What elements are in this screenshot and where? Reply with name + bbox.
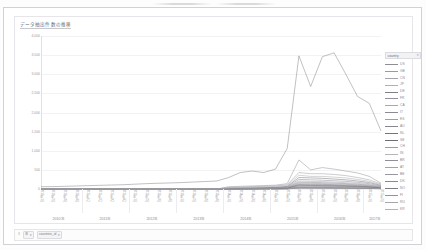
- x-axis-year-label: 2016年: [334, 216, 346, 221]
- legend-swatch-icon: [385, 167, 398, 168]
- legend-item-label: US: [400, 63, 405, 66]
- bottom-toolbar[interactable]: ⠿ 年 ▾ countries_id ▾: [14, 229, 413, 241]
- legend-swatch-icon: [385, 98, 398, 99]
- grip-icon: ⠿: [18, 233, 20, 236]
- x-axis-tick-label: 2015年2Q: [286, 189, 289, 202]
- legend-item[interactable]: BR: [385, 157, 421, 164]
- legend-item[interactable]: CN: [385, 75, 421, 82]
- x-axis-tick-label: 2016年2Q: [333, 189, 336, 202]
- x-axis-tick-label: 2017年2Q: [380, 189, 383, 202]
- legend-header[interactable]: country ▾: [385, 52, 421, 59]
- legend-item[interactable]: AT: [385, 164, 421, 171]
- legend-item[interactable]: NL: [385, 130, 421, 137]
- legend-swatch-icon: [385, 78, 398, 79]
- legend-swatch-icon: [385, 181, 398, 182]
- chart-canvas: データ抽出件数の推移 05001,0001,5002,0002,5003,000…: [14, 16, 413, 224]
- x-axis-tick-label: 2010年1Q: [40, 189, 43, 202]
- x-axis-group-separator: [270, 189, 271, 213]
- x-axis-tick-label: 2011年3Q: [110, 189, 113, 202]
- legend-item[interactable]: CA: [385, 102, 421, 109]
- y-axis-tick-label: 1,500: [32, 130, 41, 134]
- x-axis-year-labels: 2010年2011年2012年2013年2014年2015年2016年2017年: [41, 216, 381, 226]
- x-axis-tick-label: 2012年3Q: [157, 189, 160, 202]
- x-axis-tick-label: 2012年1Q: [133, 189, 136, 202]
- x-axis-group-separator: [82, 189, 83, 213]
- x-axis-tick-label: 2012年2Q: [145, 189, 148, 202]
- series-line: [41, 53, 381, 187]
- legend-item[interactable]: CH: [385, 144, 421, 151]
- x-axis-tick-label: 2012年4Q: [168, 189, 171, 202]
- legend-item[interactable]: BE: [385, 171, 421, 178]
- y-axis-tick-label: 4,000: [32, 34, 41, 38]
- x-axis-year-label: 2011年: [100, 216, 112, 221]
- legend-item[interactable]: RU: [385, 199, 421, 206]
- page-title: データ抽出件数の推移: [20, 21, 71, 29]
- x-axis-tick-label: 2016年1Q: [321, 189, 324, 202]
- filter-pill-year-label: 年: [25, 233, 28, 236]
- legend-item-label: CH: [400, 145, 405, 148]
- legend-item-label: ES: [400, 118, 404, 121]
- legend-item-label: FI: [400, 194, 403, 197]
- legend-item-label: GB: [400, 70, 405, 73]
- legend[interactable]: country ▾ USGBCNJPDEFRCAITESAUNLSECHINBR…: [385, 52, 421, 213]
- x-axis-tick-label: 2014年2Q: [239, 189, 242, 202]
- legend-item-label: RU: [400, 201, 405, 204]
- legend-item[interactable]: DE: [385, 89, 421, 96]
- legend-item-label: DK: [400, 180, 405, 183]
- filter-pill-year[interactable]: 年 ▾: [23, 231, 35, 239]
- x-axis-group-separator: [129, 189, 130, 213]
- filter-pill-countries-label: countries_id: [39, 233, 56, 236]
- chevron-down-icon[interactable]: ▾: [58, 234, 60, 237]
- x-axis-tick-label: 2013年2Q: [192, 189, 195, 202]
- legend-item[interactable]: SE: [385, 137, 421, 144]
- legend-item[interactable]: FR: [385, 95, 421, 102]
- x-axis-tick-label: 2015年1Q: [274, 189, 277, 202]
- legend-swatch-icon: [385, 154, 398, 155]
- legend-item-label: SE: [400, 139, 404, 142]
- legend-swatch-icon: [385, 195, 398, 196]
- x-axis-tick-label: 2015年4Q: [309, 189, 312, 202]
- legend-item[interactable]: IT: [385, 109, 421, 116]
- x-axis-year-label: 2017年: [369, 216, 381, 221]
- x-axis-tick-label: 2016年3Q: [344, 189, 347, 202]
- legend-swatch-icon: [385, 112, 398, 113]
- legend-swatch-icon: [385, 202, 398, 203]
- legend-swatch-icon: [385, 126, 398, 127]
- x-axis-tick-label: 2010年3Q: [63, 189, 66, 202]
- legend-item[interactable]: JP: [385, 82, 421, 89]
- legend-item-label: FR: [400, 97, 404, 100]
- app-root: データ抽出件数の推移 05001,0001,5002,0002,5003,000…: [0, 0, 426, 250]
- legend-item-label: CA: [400, 104, 405, 107]
- x-axis-tick-label: 2015年3Q: [297, 189, 300, 202]
- x-axis-tick-label: 2011年2Q: [98, 189, 101, 202]
- x-axis-tick-label: 2011年1Q: [86, 189, 89, 202]
- legend-item[interactable]: NO: [385, 185, 421, 192]
- legend-item[interactable]: DK: [385, 178, 421, 185]
- legend-item-label: AU: [400, 125, 405, 128]
- legend-item[interactable]: GB: [385, 68, 421, 75]
- legend-item-label: CN: [400, 77, 405, 80]
- x-axis-tick-label: 2011年4Q: [122, 189, 125, 202]
- legend-item[interactable]: FI: [385, 192, 421, 199]
- legend-swatch-icon: [385, 209, 398, 210]
- legend-swatch-icon: [385, 85, 398, 86]
- filter-pill-countries[interactable]: countries_id ▾: [37, 231, 63, 239]
- window-chrome-strip: [152, 3, 212, 5]
- legend-item[interactable]: KR: [385, 206, 421, 213]
- legend-item[interactable]: ES: [385, 116, 421, 123]
- legend-swatch-icon: [385, 71, 398, 72]
- x-axis-tick-label: 2014年1Q: [227, 189, 230, 202]
- legend-swatch-icon: [385, 119, 398, 120]
- x-axis-tick-label: 2014年4Q: [262, 189, 265, 202]
- legend-item-label: NO: [400, 187, 405, 190]
- chevron-down-icon[interactable]: ▾: [30, 234, 32, 237]
- x-axis-group-separator: [176, 189, 177, 213]
- legend-item[interactable]: US: [385, 61, 421, 68]
- legend-item[interactable]: AU: [385, 123, 421, 130]
- x-axis-year-label: 2012年: [146, 216, 158, 221]
- x-axis-tick-labels: 2010年1Q2010年2Q2010年3Q2010年4Q2011年1Q2011年…: [41, 189, 381, 215]
- chevron-down-icon[interactable]: ▾: [417, 54, 419, 57]
- legend-item[interactable]: IN: [385, 151, 421, 158]
- x-axis-tick-label: 2014年3Q: [251, 189, 254, 202]
- legend-item-label: JP: [400, 83, 404, 86]
